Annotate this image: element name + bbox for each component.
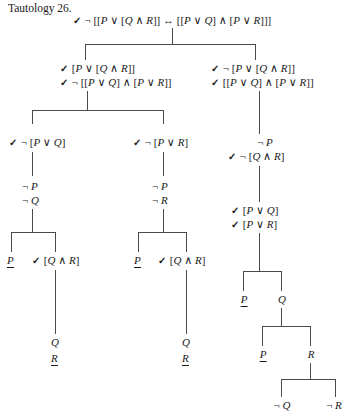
node-ll-r: R bbox=[51, 352, 58, 366]
node-right-top-2: ✓ [[P ∨ Q] ∧ [P ∨ R]] bbox=[211, 76, 314, 89]
edge-lr-to-qr bbox=[186, 232, 187, 252]
edge-left-bar bbox=[32, 110, 164, 111]
node-r-nr-text: ¬ R bbox=[326, 399, 342, 411]
edge-ll-bar bbox=[11, 232, 56, 233]
edge-right-stem bbox=[259, 91, 260, 134]
edge-lr-to-p bbox=[138, 232, 139, 252]
node-right-top-2-text: ✓ [[P ∨ Q] ∧ [P ∨ R]] bbox=[211, 76, 314, 88]
edge-left-to-ll bbox=[32, 110, 33, 124]
node-lr-1-text: ✓ ¬ [P ∨ R] bbox=[133, 136, 188, 148]
node-ll-qr: ✓ [Q ∧ R] bbox=[32, 254, 79, 267]
node-lr-p: P bbox=[134, 254, 141, 268]
edge-r-to-nr bbox=[335, 379, 336, 397]
node-ll-1-text: ✓ ¬ [P ∨ Q] bbox=[9, 136, 65, 148]
node-root: ✓ ¬ [[P ∨ [Q ∧ R]] ↔ [[P ∨ Q] ∧ [P ∨ R]]… bbox=[73, 14, 272, 27]
node-lr-p-text: P bbox=[134, 255, 141, 268]
node-lr-r-text: R bbox=[182, 353, 189, 366]
node-lr-3-text: ¬ R bbox=[152, 194, 168, 206]
node-root-text: ✓ ¬ [[P ∨ [Q ∧ R]] ↔ [[P ∨ Q] ∧ [P ∨ R]]… bbox=[73, 14, 272, 26]
node-r-q: Q bbox=[278, 293, 286, 306]
edge-r-to-q bbox=[281, 271, 282, 291]
edge-root-bar bbox=[85, 44, 256, 45]
node-ll-2: ¬ P bbox=[22, 180, 38, 193]
node-lr-qr: ✓ [Q ∧ R] bbox=[158, 254, 205, 267]
node-r-p: P bbox=[241, 293, 248, 307]
node-lr-2: ¬ P bbox=[152, 180, 168, 193]
node-r-p-text: P bbox=[241, 294, 248, 307]
edge-r-to-r bbox=[310, 326, 311, 346]
node-ll-q: Q bbox=[51, 336, 59, 349]
edge-ll-to-qr bbox=[55, 232, 56, 252]
edge-lr-bar bbox=[138, 232, 186, 233]
node-left-top-2: ✓ ¬ [[P ∨ Q] ∧ [P ∨ R]] bbox=[60, 76, 172, 89]
node-lr-q: Q bbox=[182, 336, 190, 349]
node-r-nr: ¬ R bbox=[326, 399, 342, 412]
edge-r-bar-2 bbox=[262, 326, 310, 327]
node-left-top-1: ✓ [P ∨ [Q ∧ R]] bbox=[60, 62, 135, 75]
node-lr-2-text: ¬ P bbox=[152, 180, 168, 192]
node-ll-3: ¬ Q bbox=[22, 194, 39, 207]
edge-r-stem-3 bbox=[259, 233, 260, 271]
node-lr-r: R bbox=[182, 352, 189, 366]
page-title: Tautology 26. bbox=[8, 2, 72, 14]
node-ll-2-text: ¬ P bbox=[22, 180, 38, 192]
edge-left-to-lr bbox=[163, 110, 164, 124]
node-lr-3: ¬ R bbox=[152, 194, 168, 207]
node-r-pr-text: ✓ [P ∨ R] bbox=[231, 218, 277, 230]
node-ll-3-text: ¬ Q bbox=[22, 194, 39, 206]
edge-left-stem bbox=[87, 91, 88, 110]
edge-r-r-stem bbox=[310, 363, 311, 379]
edge-ll-qr-stem bbox=[55, 270, 56, 334]
node-right-top-1-text: ✓ ¬ [P ∨ [Q ∧ R]] bbox=[211, 62, 295, 74]
node-r-np: ¬ P bbox=[257, 136, 273, 149]
node-r-nqr-text: ✓ ¬ [Q ∧ R] bbox=[228, 150, 284, 162]
node-ll-q-text: Q bbox=[51, 336, 59, 348]
edge-r-to-nq bbox=[281, 379, 282, 397]
node-lr-q-text: Q bbox=[182, 336, 190, 348]
node-ll-1: ✓ ¬ [P ∨ Q] bbox=[9, 136, 65, 149]
edge-ll-stem-2 bbox=[32, 209, 33, 232]
edge-lr-stem-2 bbox=[163, 209, 164, 232]
edge-r-q-stem bbox=[281, 308, 282, 326]
edge-lr-stem bbox=[163, 152, 164, 176]
edge-lr-qr-stem bbox=[186, 270, 187, 334]
edge-root-stem bbox=[172, 28, 173, 44]
node-lr-qr-text: ✓ [Q ∧ R] bbox=[158, 254, 205, 266]
edge-r-bar-1 bbox=[243, 271, 281, 272]
node-r-pq-text: ✓ [P ∨ Q] bbox=[231, 204, 278, 216]
node-r-p2: P bbox=[260, 348, 267, 362]
node-r-p2-text: P bbox=[260, 349, 267, 362]
node-r-pq: ✓ [P ∨ Q] bbox=[231, 204, 278, 217]
node-r-nq: ¬ Q bbox=[274, 399, 291, 412]
node-r-nq-text: ¬ Q bbox=[274, 399, 291, 411]
node-left-top-1-text: ✓ [P ∨ [Q ∧ R]] bbox=[60, 62, 135, 74]
edge-ll-to-p bbox=[11, 232, 12, 252]
node-right-top-1: ✓ ¬ [P ∨ [Q ∧ R]] bbox=[211, 62, 295, 75]
edge-r-bar-3 bbox=[281, 379, 336, 380]
node-r-nqr: ✓ ¬ [Q ∧ R] bbox=[228, 150, 284, 163]
node-ll-r-text: R bbox=[51, 353, 58, 366]
node-left-top-2-text: ✓ ¬ [[P ∨ Q] ∧ [P ∨ R]] bbox=[60, 76, 172, 88]
node-r-q-text: Q bbox=[278, 293, 286, 305]
node-lr-1: ✓ ¬ [P ∨ R] bbox=[133, 136, 188, 149]
edge-root-to-left bbox=[85, 44, 86, 60]
node-r-pr: ✓ [P ∨ R] bbox=[231, 218, 277, 231]
edge-r-to-p2 bbox=[262, 326, 263, 346]
node-ll-p-text: P bbox=[7, 255, 14, 268]
node-r-r: R bbox=[308, 348, 315, 361]
edge-ll-stem bbox=[32, 152, 33, 176]
node-ll-p: P bbox=[7, 254, 14, 268]
edge-root-to-right bbox=[255, 44, 256, 60]
node-r-np-text: ¬ P bbox=[257, 136, 273, 148]
node-ll-qr-text: ✓ [Q ∧ R] bbox=[32, 254, 79, 266]
edge-r-to-p bbox=[243, 271, 244, 291]
node-r-r-text: R bbox=[308, 348, 315, 360]
edge-r-stem-2 bbox=[259, 166, 260, 202]
